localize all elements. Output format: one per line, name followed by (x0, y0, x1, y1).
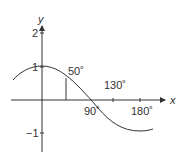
x-axis-label: x (169, 94, 176, 106)
angle-label-50: 50˚ (68, 65, 84, 77)
x-tick-label-90: 90˚ (84, 105, 100, 117)
cosine-diagram: y x 2 1 −1 90˚ 130˚ 180˚ 50˚ (0, 0, 189, 160)
y-tick-label-2: 2 (32, 27, 38, 39)
x-tick-label-180: 180˚ (131, 105, 153, 117)
x-tick-label-130: 130˚ (104, 79, 126, 91)
y-axis-label: y (37, 13, 45, 25)
y-tick-label-neg1: −1 (26, 127, 39, 139)
y-tick-label-1: 1 (32, 61, 38, 73)
